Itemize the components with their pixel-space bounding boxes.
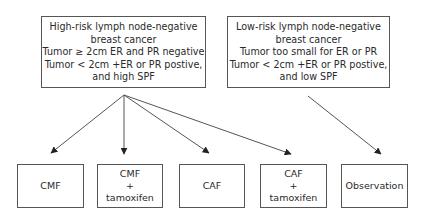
arrow-high-risk-to-caf (124, 95, 209, 153)
low-risk-line-4: Tumor < 2cm +ER or PR postive, (230, 59, 388, 71)
caf-tamoxifen-line-3: tamoxifen (270, 192, 318, 204)
arrow-low-risk-to-observation (308, 96, 381, 154)
high-risk-line-4: Tumor < 2cm +ER or PR postive, (45, 59, 203, 71)
arrow-high-risk-to-cmf (51, 95, 124, 153)
low-risk-line-1: Low-risk lymph node-negative (236, 21, 381, 33)
cmf-tamoxifen-line-2: + (126, 180, 134, 192)
cmf-tamoxifen-line-3: tamoxifen (106, 192, 154, 204)
observation-box: Observation (341, 164, 408, 208)
cmf-box: CMF (17, 164, 84, 208)
cmf-label: CMF (40, 180, 60, 192)
high-risk-line-5: and high SPF (92, 71, 154, 83)
arrow-high-risk-to-caf-tamoxifen (124, 95, 291, 154)
caf-tamoxifen-line-2: + (290, 180, 298, 192)
low-risk-line-5: and low SPF (280, 71, 338, 83)
cmf-tamoxifen-line-1: CMF (120, 168, 140, 180)
low-risk-line-3: Tumor too small for ER or PR (240, 46, 377, 58)
high-risk-line-3: Tumor ≥ 2cm ER and PR negative (43, 46, 205, 58)
caf-label: CAF (203, 180, 222, 192)
low-risk-line-2: breast cancer (276, 34, 342, 46)
low-risk-box: Low-risk lymph node-negative breast canc… (227, 16, 390, 88)
high-risk-line-1: High-risk lymph node-negative (50, 21, 198, 33)
high-risk-line-2: breast cancer (91, 34, 157, 46)
cmf-tamoxifen-box: CMF + tamoxifen (97, 164, 163, 208)
caf-box: CAF (179, 164, 245, 208)
high-risk-box: High-risk lymph node-negative breast can… (41, 16, 206, 88)
observation-label: Observation (346, 180, 404, 192)
caf-tamoxifen-box: CAF + tamoxifen (260, 164, 327, 208)
caf-tamoxifen-line-1: CAF (284, 168, 303, 180)
